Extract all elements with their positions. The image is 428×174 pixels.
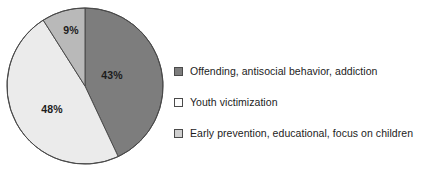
legend-swatch-icon-offending [174, 67, 183, 76]
legend-label-early-prevention: Early prevention, educational, focus on … [190, 128, 413, 139]
legend-label-youth-victimization: Youth victimization [190, 97, 278, 108]
legend-label-offending: Offending, antisocial behavior, addictio… [190, 66, 377, 77]
pie-chart-figure: 43% 48% 9% Offending, antisocial behavio… [0, 0, 428, 174]
legend-swatch-icon-early-prevention [174, 129, 183, 138]
pie-plot-area: 43% 48% 9% [0, 0, 175, 174]
legend-item-youth-victimization[interactable]: Youth victimization [174, 87, 424, 118]
legend-swatch-icon-youth-victimization [174, 98, 183, 107]
legend-item-offending[interactable]: Offending, antisocial behavior, addictio… [174, 56, 424, 87]
pie-svg [0, 0, 175, 174]
chart-legend: Offending, antisocial behavior, addictio… [174, 56, 424, 149]
legend-item-early-prevention[interactable]: Early prevention, educational, focus on … [174, 118, 424, 149]
